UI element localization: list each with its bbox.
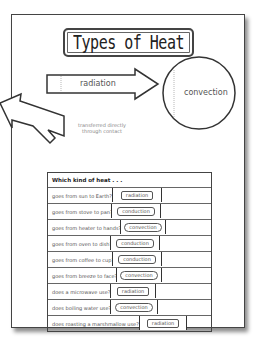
answer-cell: radiation: [139, 316, 187, 330]
table-row: does boiling water use? convection: [48, 300, 211, 316]
question: goes from coffee to cup?: [48, 257, 114, 263]
conduction-note: transferred directly through contact: [72, 122, 132, 134]
answer-tag: conduction: [117, 207, 155, 216]
question: goes from sun to Earth?: [48, 193, 112, 199]
note-line-2: through contact: [72, 128, 132, 134]
table-row: does roasting a marshmallow use? radiati…: [48, 316, 211, 331]
answer-cell: convection: [120, 220, 166, 234]
answer-cell: convection: [110, 300, 158, 314]
table-row: goes from oven to dish? conduction: [48, 236, 211, 252]
question: goes from heater to hands?: [48, 225, 121, 231]
question: goes from stove to pan?: [48, 209, 113, 215]
answer-tag: radiation: [121, 191, 153, 200]
answer-cell: conduction: [111, 204, 161, 218]
answer-cell: conduction: [110, 236, 160, 250]
answer-tag: convection: [124, 223, 161, 232]
answer-tag: radiation: [147, 319, 179, 328]
question: does a microwave use?: [48, 289, 110, 295]
answer-tag: radiation: [117, 287, 149, 296]
table-header-row: Which kind of heat . . .: [48, 173, 211, 188]
quiz-table: Which kind of heat . . . goes from sun t…: [47, 172, 212, 332]
answer-tag: convection: [120, 271, 157, 280]
convection-label: convection: [184, 88, 228, 97]
question: goes from oven to dish?: [48, 241, 112, 247]
conduction-arrow: [0, 94, 64, 143]
table-row: goes from heater to hands? convection: [48, 220, 211, 236]
answer-tag: conduction: [116, 239, 154, 248]
answer-cell: conduction: [112, 252, 162, 266]
answer-tag: conduction: [118, 255, 156, 264]
table-header: Which kind of heat . . .: [48, 177, 122, 183]
table-row: goes from stove to pan? conduction: [48, 204, 211, 220]
question: does roasting a marshmallow use?: [48, 321, 139, 327]
table-row: goes from sun to Earth? radiation: [48, 188, 211, 204]
question: does boiling water use?: [48, 305, 111, 311]
question: goes from breeze to face?: [48, 273, 117, 279]
answer-cell: radiation: [112, 188, 162, 202]
answer-tag: convection: [115, 303, 152, 312]
table-row: goes from coffee to cup? conduction: [48, 252, 211, 268]
radiation-label: radiation: [80, 79, 116, 88]
answer-cell: convection: [116, 268, 162, 282]
table-row: does a microwave use? radiation: [48, 284, 211, 300]
table-row: goes from breeze to face? convection: [48, 268, 211, 284]
answer-cell: radiation: [110, 284, 156, 298]
